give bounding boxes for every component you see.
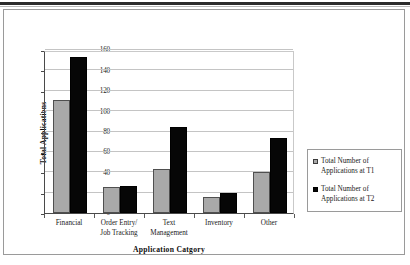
legend-swatch-t1 — [313, 159, 318, 164]
bar-t2 — [120, 186, 137, 214]
page-top-rule-thin — [0, 6, 410, 7]
bar-t1 — [153, 169, 170, 213]
x-axis-tick-mark — [44, 214, 45, 218]
plot-area — [44, 51, 294, 214]
bar-t1 — [103, 187, 120, 213]
legend-label-line2: Applications at T1 — [321, 167, 374, 177]
legend-item: Total Number ofApplications at T1 — [313, 157, 397, 176]
bar-group — [45, 52, 95, 213]
bar-group — [95, 52, 145, 213]
x-axis-category-label-line1: Other — [234, 219, 304, 229]
bar-group — [245, 52, 295, 213]
chart-figure: Total Applications 020406080100120140160… — [3, 9, 405, 255]
x-axis-tick-mark — [294, 214, 295, 218]
x-axis-title: Application Catgory — [44, 245, 294, 254]
x-axis-tick-mark — [194, 214, 195, 218]
legend-item: Total Number ofApplications at T2 — [313, 185, 397, 204]
bar-t2 — [270, 138, 287, 213]
bar-t2 — [170, 127, 187, 213]
bar-group — [145, 52, 195, 213]
bar-t1 — [203, 197, 220, 213]
bar-t2 — [220, 193, 237, 213]
x-axis-tick-mark — [244, 214, 245, 218]
legend-label-line1: Total Number of — [321, 185, 374, 195]
gridline — [45, 49, 293, 50]
bar-t1 — [253, 172, 270, 213]
chart-legend: Total Number ofApplications at T1Total N… — [307, 149, 402, 212]
legend-label: Total Number ofApplications at T1 — [321, 157, 374, 176]
legend-label: Total Number ofApplications at T2 — [321, 185, 374, 204]
bar-t1 — [53, 100, 70, 213]
x-axis-category-label-line2: Management — [134, 229, 204, 239]
legend-label-line2: Applications at T2 — [321, 195, 374, 205]
bar-t2 — [70, 57, 87, 213]
legend-label-line1: Total Number of — [321, 157, 374, 167]
x-axis-tick-mark — [94, 214, 95, 218]
legend-swatch-t2 — [313, 187, 318, 192]
page-top-rule — [0, 2, 410, 5]
x-axis-category-label: Other — [234, 219, 304, 229]
bar-group — [195, 52, 245, 213]
x-axis-tick-mark — [144, 214, 145, 218]
y-axis-title-container: Total Applications — [20, 51, 40, 214]
